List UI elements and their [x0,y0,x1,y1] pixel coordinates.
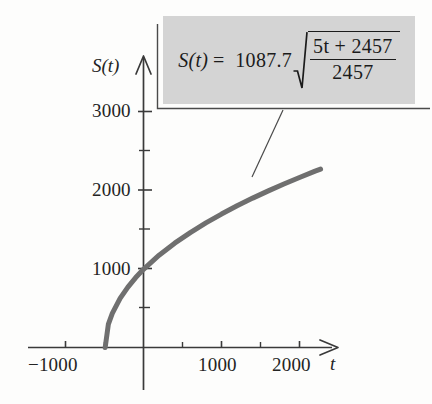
x-axis-label: t [330,353,335,375]
function-graph-figure: S(t) = 1087.7 5t + 2457 2457 S(t) t 3000… [0,0,432,404]
equation-callout: S(t) = 1087.7 5t + 2457 2457 [163,16,415,104]
y-tick-label-2000: 2000 [92,179,131,201]
y-axis-label: S(t) [92,55,119,77]
equation-formula: S(t) = 1087.7 5t + 2457 2457 [163,16,415,104]
x-tick-label-1000: 1000 [198,354,237,376]
radical-group: 5t + 2457 2457 [293,31,400,89]
y-tick-label-1000: 1000 [92,258,131,280]
y-axis-major-ticks [138,112,152,269]
fraction-denominator: 2457 [329,60,376,86]
callout-leader-line [252,110,283,177]
fraction-numerator: 5t + 2457 [310,34,396,59]
equation-equals-sign: = [213,49,224,72]
square-root-icon [293,31,308,89]
x-tick-label-2000: 2000 [272,354,311,376]
equation-lhs: S(t) [178,49,208,72]
radicand-fraction: 5t + 2457 2457 [308,31,400,89]
y-axis-minor-ticks [139,151,150,308]
y-tick-label-3000: 3000 [92,100,131,122]
equation-coefficient: 1087.7 [235,49,292,72]
x-tick-label-minus-1000: −1000 [28,354,78,376]
function-curve [105,169,320,347]
